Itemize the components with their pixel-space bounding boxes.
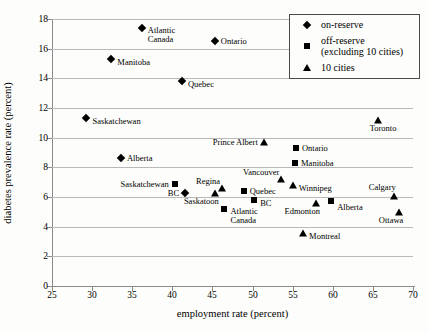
point-label-line: Prince Albert: [213, 138, 258, 148]
square-marker-icon: [304, 43, 310, 49]
x-tick-label-40: 40: [160, 290, 184, 300]
point-label-manitoba: Manitoba: [301, 159, 334, 169]
point-label-bc: BC: [260, 199, 271, 209]
triangle-marker-icon: [390, 192, 398, 199]
y-tick-label-4: 4: [24, 222, 48, 232]
gridline-y-4: [52, 227, 413, 228]
y-axis-title: diabetes prevalence rate (percent): [2, 33, 14, 273]
point-label-saskatoon: Saskatoon: [184, 197, 219, 207]
y-tick-label-16: 16: [24, 44, 48, 54]
x-tick-label-45: 45: [200, 290, 224, 300]
point-label-line: Toronto: [370, 124, 397, 134]
x-tick-label-65: 65: [361, 290, 385, 300]
point-label-toronto: Toronto: [370, 124, 397, 134]
point-label-manitoba: Manitoba: [117, 58, 150, 68]
point-label-calgary: Calgary: [369, 183, 396, 193]
legend-item-off-reserve: off-reserve(excluding 10 cities): [302, 35, 417, 57]
x-tick-label-50: 50: [241, 290, 265, 300]
point-off-reserve-saskatchewan: [172, 181, 178, 187]
point-10-montreal: [299, 229, 307, 236]
point-label-alberta: Alberta: [337, 204, 363, 214]
gridline-y-2: [52, 256, 413, 257]
point-10-prince-albert: [260, 139, 268, 146]
triangle-marker-icon: [289, 182, 297, 189]
diabetes-employment-scatter-figure: diabetes prevalence rate (percent) Atlan…: [0, 0, 429, 333]
legend: on-reserveoff-reserve(excluding 10 citie…: [289, 14, 420, 79]
point-label-line: Ontario: [302, 144, 328, 154]
point-label-line: Saskatchewan: [92, 118, 140, 128]
square-marker-icon: [172, 181, 178, 187]
point-label-line: Regina: [196, 177, 220, 187]
point-label-quebec: Quebec: [250, 187, 276, 197]
square-marker-icon: [221, 206, 227, 212]
square-marker-icon: [251, 197, 257, 203]
x-tick-label-25: 25: [40, 290, 64, 300]
point-label-line: Montreal: [309, 232, 340, 242]
diamond-marker-icon: [117, 154, 125, 162]
point-off-reserve-ontario: [293, 145, 299, 151]
point-label-line: Saskatoon: [184, 197, 219, 207]
point-label-line: Saskatchewan: [121, 180, 169, 190]
square-marker-icon: [292, 160, 298, 166]
point-label-saskatchewan: Saskatchewan: [92, 118, 140, 128]
point-label-quebec: Quebec: [188, 81, 214, 91]
diamond-marker-icon: [211, 37, 219, 45]
point-label-ottawa: Ottawa: [379, 216, 404, 226]
point-off-reserve-bc: [251, 197, 257, 203]
y-tick-label-10: 10: [24, 133, 48, 143]
point-label-line: Manitoba: [301, 159, 334, 169]
x-tick-label-60: 60: [321, 290, 345, 300]
point-label-line: Canada: [148, 35, 175, 45]
diamond-marker-icon: [303, 20, 311, 28]
x-axis-title: employment rate (percent): [52, 308, 413, 319]
legend-label-line: 10 cities: [321, 62, 355, 73]
x-axis-line: [52, 286, 415, 287]
point-label-regina: Regina: [196, 177, 220, 187]
gridline-y-12: [52, 108, 413, 109]
point-on-reserve-bc: [182, 190, 188, 196]
point-label-line: Winnipeg: [299, 184, 332, 194]
y-tick-label-14: 14: [24, 73, 48, 83]
legend-item-10-cities: 10 cities: [302, 62, 417, 73]
point-label-line: Quebec: [250, 187, 276, 197]
point-label-line: Edmonton: [285, 207, 320, 217]
legend-marker-cell: [302, 22, 312, 28]
point-on-reserve-quebec: [179, 78, 185, 84]
y-tick-label-8: 8: [24, 162, 48, 172]
point-label-bc: BC: [168, 189, 179, 199]
y-tick-label-6: 6: [24, 192, 48, 202]
y-tick-label-2: 2: [24, 251, 48, 261]
gridline-y-6: [52, 197, 413, 198]
legend-marker-cell: [302, 64, 312, 71]
triangle-marker-icon: [303, 64, 311, 71]
x-tick-label-55: 55: [281, 290, 305, 300]
point-label-line: BC: [260, 199, 271, 209]
point-label-alberta: Alberta: [127, 155, 153, 165]
triangle-marker-icon: [260, 139, 268, 146]
point-on-reserve-alberta: [118, 155, 124, 161]
point-off-reserve-manitoba: [292, 160, 298, 166]
point-on-reserve-atlantic-canada: [139, 25, 145, 31]
legend-label: on-reserve: [321, 19, 363, 30]
point-label-line: Quebec: [188, 81, 214, 91]
point-label-montreal: Montreal: [309, 232, 340, 242]
point-label-line: BC: [168, 189, 179, 199]
point-label-winnipeg: Winnipeg: [299, 184, 332, 194]
point-label-atlantic-canada: AtlanticCanada: [230, 206, 257, 225]
point-label-line: Calgary: [369, 183, 396, 193]
point-label-line: Ontario: [221, 38, 247, 48]
point-label-line: Manitoba: [117, 58, 150, 68]
point-label-atlantic-canada: AtlanticCanada: [148, 25, 175, 44]
point-label-prince-albert: Prince Albert: [213, 138, 258, 148]
point-label-ontario: Ontario: [221, 38, 247, 48]
point-label-line: Canada: [230, 216, 257, 226]
legend-label: 10 cities: [321, 62, 355, 73]
diamond-marker-icon: [178, 77, 186, 85]
point-on-reserve-saskatchewan: [83, 115, 89, 121]
legend-label-line: (excluding 10 cities): [321, 46, 403, 57]
point-10-winnipeg: [289, 182, 297, 189]
point-label-line: Vancouver: [243, 168, 279, 178]
gridline-y-8: [52, 167, 413, 168]
x-tick-label-70: 70: [401, 290, 425, 300]
diamond-marker-icon: [107, 55, 115, 63]
